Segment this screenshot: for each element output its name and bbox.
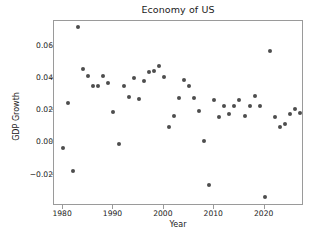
data-point (283, 122, 287, 126)
data-point (197, 109, 201, 113)
data-point (273, 115, 277, 119)
plot-area (53, 20, 303, 205)
data-point (298, 111, 302, 115)
data-point (127, 95, 131, 99)
x-tick-mark (112, 205, 113, 209)
y-tick-mark (49, 174, 53, 175)
data-point (207, 183, 211, 187)
data-point (278, 125, 282, 129)
data-point (167, 125, 171, 129)
data-point (212, 98, 216, 102)
data-point (152, 69, 156, 73)
x-tick-mark (264, 205, 265, 209)
y-tick-mark (49, 141, 53, 142)
data-point (177, 96, 181, 100)
y-tick-mark (49, 77, 53, 78)
data-point (187, 84, 191, 88)
scatter-chart-figure: Economy of US −0.020.000.020.040.06 1980… (0, 0, 316, 237)
data-point (232, 104, 236, 108)
data-point (288, 112, 292, 116)
data-point (182, 78, 186, 82)
x-tick-mark (213, 205, 214, 209)
data-point (192, 96, 196, 100)
data-point (248, 104, 252, 108)
data-point (227, 112, 231, 116)
data-point (222, 104, 226, 108)
data-point (81, 67, 85, 71)
data-point (91, 84, 95, 88)
x-tick-mark (62, 205, 63, 209)
data-point (137, 97, 141, 101)
data-point (86, 74, 90, 78)
data-point (202, 139, 206, 143)
x-tick-label: 2000 (153, 209, 172, 218)
data-point (217, 115, 221, 119)
data-point (253, 94, 257, 98)
x-tick-label: 2020 (254, 209, 273, 218)
data-point (243, 114, 247, 118)
data-point (237, 98, 241, 102)
data-point (117, 142, 121, 146)
y-tick-mark (49, 45, 53, 46)
x-tick-mark (163, 205, 164, 209)
y-tick-mark (49, 109, 53, 110)
x-tick-label: 1990 (103, 209, 122, 218)
x-axis-label: Year (53, 220, 303, 229)
data-point (106, 81, 110, 85)
data-point (147, 70, 151, 74)
data-point (263, 195, 267, 199)
data-point (162, 75, 166, 79)
data-point (111, 110, 115, 114)
x-tick-label: 1980 (52, 209, 71, 218)
x-tick-label: 2010 (204, 209, 223, 218)
y-axis-label: GDP Growth (12, 67, 21, 167)
data-point (96, 84, 100, 88)
data-point (157, 64, 161, 68)
data-point (258, 104, 262, 108)
data-point (71, 169, 75, 173)
chart-title: Economy of US (53, 4, 303, 15)
data-point (293, 107, 297, 111)
data-point (101, 74, 105, 78)
data-point (142, 79, 146, 83)
data-point (66, 101, 70, 105)
data-point (172, 114, 176, 118)
data-point (132, 76, 136, 80)
data-point (122, 84, 126, 88)
data-point (268, 49, 272, 53)
data-point (61, 146, 65, 150)
data-point (76, 25, 80, 29)
